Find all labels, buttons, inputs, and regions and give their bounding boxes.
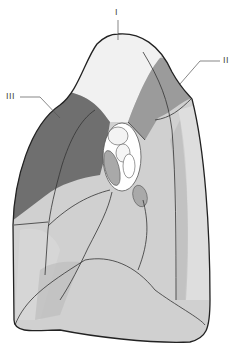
label-segment-III: III [6, 91, 15, 101]
label-segment-I: I [115, 7, 118, 17]
lung-diagram: I II III [0, 0, 236, 349]
label-segment-II: II [223, 55, 229, 65]
lung-illustration [0, 0, 236, 349]
